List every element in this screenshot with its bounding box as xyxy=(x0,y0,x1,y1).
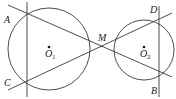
label-o1-sub: 1 xyxy=(52,53,56,61)
label-m: M xyxy=(97,32,107,43)
geometry-diagram: A C D B M O 1 O 2 xyxy=(0,0,176,99)
label-d: D xyxy=(149,4,158,15)
label-o2-sub: 2 xyxy=(147,53,151,61)
label-b: B xyxy=(151,85,157,96)
label-c: C xyxy=(4,77,11,88)
label-a: A xyxy=(3,14,11,25)
line-cd xyxy=(8,13,172,90)
line-ab xyxy=(8,5,172,77)
